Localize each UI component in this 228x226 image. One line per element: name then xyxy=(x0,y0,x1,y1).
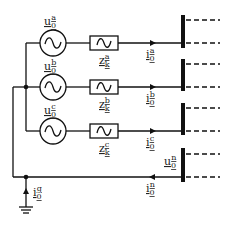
neutral-current-label: i0n xyxy=(146,180,155,197)
busbar-b xyxy=(181,59,185,91)
ground-node xyxy=(24,175,29,180)
current-c-label: i0c xyxy=(146,134,155,151)
source-b-label: u0b xyxy=(44,58,56,75)
source-c-label: u0c xyxy=(44,102,56,119)
ground-current-label: i0g xyxy=(33,184,42,201)
impedance-c-label: zkc xyxy=(99,140,110,157)
current-b-label: i0b xyxy=(146,90,155,107)
impedance-b-label: zkb xyxy=(99,96,110,113)
current-arrow-g-icon xyxy=(23,188,29,194)
source-a-label: u0a xyxy=(44,13,56,30)
impedance-a-label: zka xyxy=(99,52,110,69)
current-a-label: i0a xyxy=(146,46,155,63)
busbar-c xyxy=(181,103,185,135)
neutral-voltage-label: u0n xyxy=(164,153,176,170)
source-node xyxy=(24,85,29,90)
circuit-diagram: u0a u0b u0c zka zkb zkc i0a i0b i0c u0n … xyxy=(0,0,228,226)
busbar-n xyxy=(181,148,185,182)
busbar-a xyxy=(181,15,185,48)
